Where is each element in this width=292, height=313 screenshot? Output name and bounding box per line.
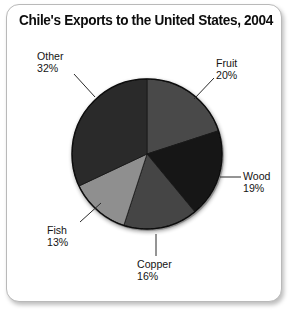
leader-line-other bbox=[74, 74, 95, 97]
pie-label-fish-name: Fish bbox=[47, 224, 68, 236]
pie-label-other-value: 32% bbox=[37, 62, 64, 74]
pie-label-fruit: Fruit 20% bbox=[216, 57, 237, 82]
pie-label-other: Other 32% bbox=[37, 50, 64, 75]
pie-label-wood-value: 19% bbox=[243, 182, 270, 194]
pie-label-wood: Wood 19% bbox=[243, 170, 270, 195]
pie-chart: Other 32% Fruit 20% Wood 19% Fish 13% Co… bbox=[0, 0, 292, 313]
pie-slice-group bbox=[72, 79, 222, 229]
pie-label-wood-name: Wood bbox=[243, 170, 270, 182]
pie-label-fruit-name: Fruit bbox=[216, 57, 237, 69]
pie-label-fruit-value: 20% bbox=[216, 69, 237, 81]
leader-line-fruit bbox=[194, 78, 214, 99]
pie-label-fish-value: 13% bbox=[47, 236, 68, 248]
pie-label-other-name: Other bbox=[37, 50, 64, 62]
pie-label-copper: Copper 16% bbox=[137, 258, 172, 283]
pie-label-fish: Fish 13% bbox=[47, 224, 68, 249]
leader-line-fish bbox=[80, 203, 101, 222]
pie-label-copper-value: 16% bbox=[137, 270, 172, 282]
pie-label-copper-name: Copper bbox=[137, 258, 172, 270]
